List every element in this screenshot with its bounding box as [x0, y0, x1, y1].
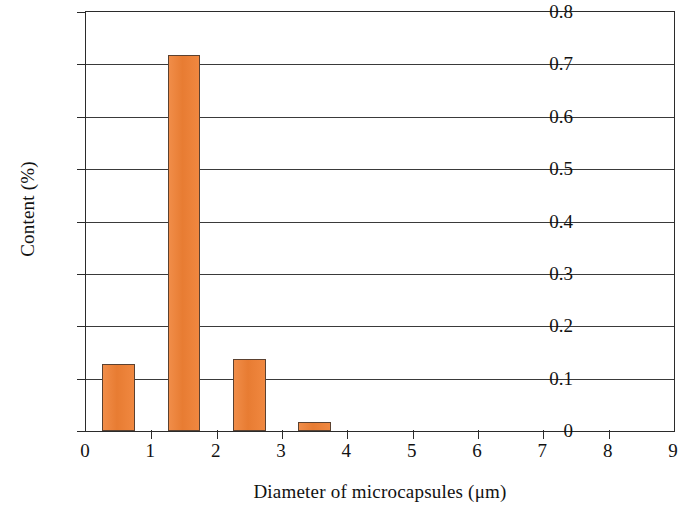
y-axis-tick	[77, 274, 86, 275]
x-axis-tick	[347, 430, 348, 439]
y-axis-tick	[77, 117, 86, 118]
y-axis-tick	[77, 326, 86, 327]
x-axis-tick-label: 7	[522, 441, 562, 460]
x-axis-tick-label: 2	[196, 441, 236, 460]
x-axis-tick	[282, 430, 283, 439]
bar	[233, 359, 266, 431]
y-axis-tick	[77, 12, 86, 13]
x-axis-tick	[478, 430, 479, 439]
x-axis-tick-label: 4	[326, 441, 366, 460]
y-axis-tick-label: 0.6	[513, 107, 573, 126]
y-axis-tick-label: 0.2	[513, 316, 573, 335]
y-axis-tick-label: 0.7	[513, 54, 573, 73]
x-axis-tick	[543, 430, 544, 439]
x-axis-title: Diameter of microcapsules (μm)	[85, 481, 675, 503]
y-axis-tick	[77, 222, 86, 223]
x-axis-tick	[151, 430, 152, 439]
y-axis-tick	[77, 431, 86, 432]
y-axis-tick	[77, 64, 86, 65]
y-axis-title: Content (%)	[17, 89, 39, 329]
x-axis-tick-label: 1	[130, 441, 170, 460]
chart-figure: Content (%) 00.10.20.30.40.50.60.70.8 Di…	[0, 0, 682, 514]
y-axis-tick-label: 0.3	[513, 264, 573, 283]
x-axis-tick-label: 5	[392, 441, 432, 460]
x-axis-tick	[413, 430, 414, 439]
y-axis-tick-label: 0.4	[513, 212, 573, 231]
bar	[298, 422, 331, 431]
y-axis-tick-label: 0.8	[513, 2, 573, 21]
x-axis-tick-label: 6	[457, 441, 497, 460]
x-axis-tick-label: 8	[588, 441, 628, 460]
y-axis-tick-label: 0.5	[513, 159, 573, 178]
y-axis-tick	[77, 379, 86, 380]
x-axis-tick	[217, 430, 218, 439]
bar	[168, 55, 201, 431]
x-axis-tick-label: 3	[261, 441, 301, 460]
y-axis-tick-label: 0.1	[513, 369, 573, 388]
bar	[102, 364, 135, 431]
y-axis-tick	[77, 169, 86, 170]
x-axis-tick-label: 9	[653, 441, 682, 460]
x-axis-tick	[609, 430, 610, 439]
plot-area: 00.10.20.30.40.50.60.70.8	[85, 11, 675, 432]
x-axis-tick-label: 0	[65, 441, 105, 460]
